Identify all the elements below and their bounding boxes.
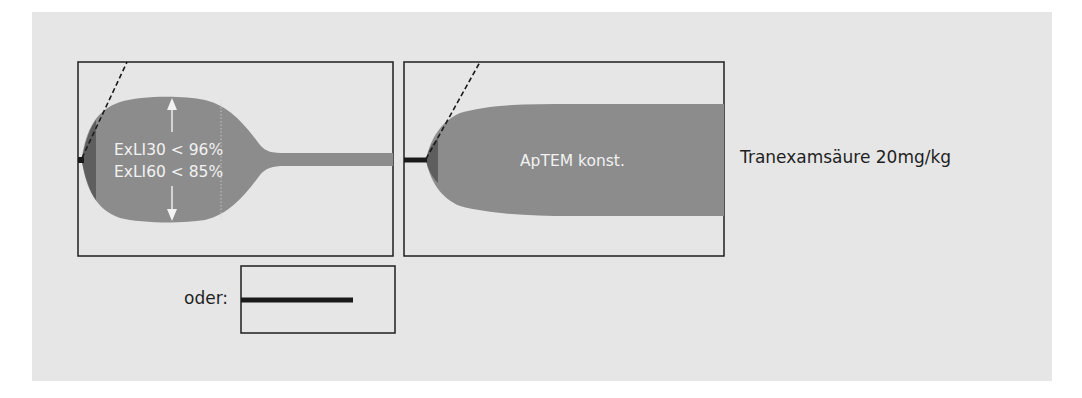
lysis-baseline-stub — [78, 157, 84, 163]
rotem-diagram: ExLI30 < 96% ExLI60 < 85% ApTEM konst. — [0, 0, 1082, 398]
treatment-label: Tranexamsäure 20mg/kg — [740, 147, 951, 167]
flatline-trace — [241, 298, 353, 303]
panel-flatline — [241, 266, 395, 333]
panel-aptem: ApTEM konst. — [404, 62, 724, 256]
aptem-baseline-line — [404, 158, 427, 163]
aptem-label: ApTEM konst. — [520, 152, 625, 170]
lysis-label-line-1: ExLI30 < 96% — [114, 141, 223, 159]
alternative-label: oder: — [184, 288, 228, 308]
lysis-trace-shape — [82, 97, 393, 223]
panel-lysis: ExLI30 < 96% ExLI60 < 85% — [78, 62, 393, 256]
lysis-label-line-2: ExLI60 < 85% — [114, 163, 223, 181]
